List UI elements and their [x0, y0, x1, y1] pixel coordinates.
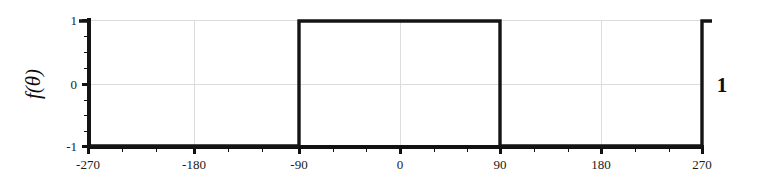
x-tick-label-90: 90: [494, 157, 507, 172]
square-wave-chart: 1 0 -1 -270 -180 -90 0 90 180 270 f(θ) 1: [0, 0, 764, 180]
x-tick-label-neg270: -270: [76, 157, 100, 172]
y-tick-label-neg1: -1: [66, 139, 77, 154]
y-tick-label-0: 0: [71, 77, 78, 92]
y-tick-label-1: 1: [71, 13, 78, 28]
amplitude-annotation: 1: [717, 73, 728, 97]
x-tick-label-0: 0: [397, 157, 404, 172]
x-tick-label-neg90: -90: [290, 157, 307, 172]
x-tick-label-270: 270: [692, 157, 712, 172]
x-tick-label-180: 180: [591, 157, 611, 172]
plot-background: [88, 20, 703, 147]
figure-container: 1 0 -1 -270 -180 -90 0 90 180 270 f(θ) 1: [0, 0, 764, 180]
x-tick-label-neg180: -180: [182, 157, 206, 172]
y-axis-title: f(θ): [21, 69, 45, 99]
